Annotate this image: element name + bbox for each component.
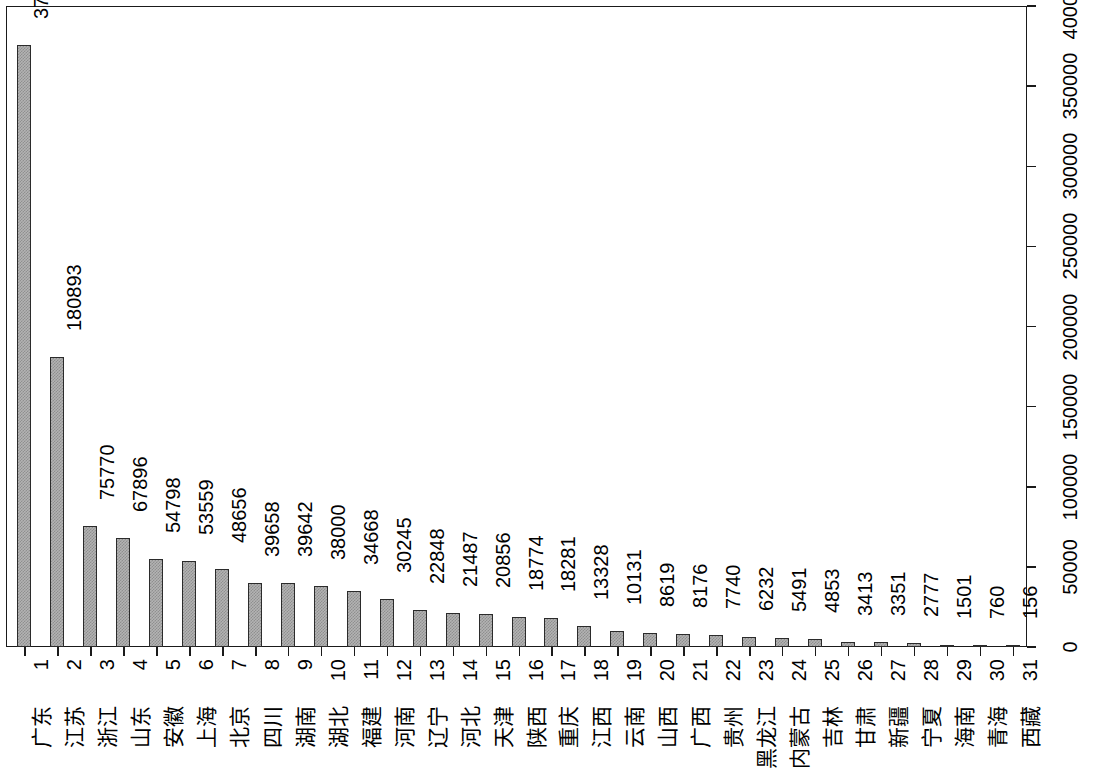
category-rank-label: 22 xyxy=(723,659,743,681)
bar-rect xyxy=(544,618,558,647)
category-tick xyxy=(123,647,125,656)
category-rank-label: 6 xyxy=(196,659,216,670)
category-name-label: 西藏 xyxy=(1021,706,1042,748)
category-name-label: 宁夏 xyxy=(922,706,943,748)
bar: 1501 xyxy=(940,6,954,647)
bar-rect xyxy=(347,591,361,647)
category-name-label: 福建 xyxy=(362,706,383,748)
category-rank-label: 20 xyxy=(657,659,677,681)
category-name-label: 北京 xyxy=(230,706,251,748)
category-rank-label: 5 xyxy=(163,659,183,670)
category-tick xyxy=(222,647,224,656)
bar-rect xyxy=(281,583,295,647)
category-rank-label: 23 xyxy=(756,659,776,681)
bar: 18774 xyxy=(512,6,526,647)
category-tick xyxy=(1013,647,1015,656)
bar-value-label: 39658 xyxy=(262,502,282,558)
category-tick xyxy=(584,647,586,656)
value-tick-label: 150000 xyxy=(1060,373,1080,440)
category-rank-label: 21 xyxy=(690,659,710,681)
bar-value-label: 53559 xyxy=(196,480,216,536)
bar: 38000 xyxy=(314,6,328,647)
category-tick xyxy=(387,647,389,656)
bar: 18281 xyxy=(544,6,558,647)
bar-value-label: 21487 xyxy=(460,531,480,587)
bar: 53559 xyxy=(182,6,196,647)
bar: 75770 xyxy=(83,6,97,647)
bar-rect xyxy=(643,633,657,647)
value-tick xyxy=(1027,166,1036,168)
bar-rect xyxy=(775,638,789,647)
bar-value-label: 20856 xyxy=(493,532,513,588)
category-name-label: 河南 xyxy=(395,706,416,748)
bar-rect xyxy=(83,526,97,647)
category-tick xyxy=(683,647,685,656)
bar-rect xyxy=(512,617,526,647)
category-name-label: 安徽 xyxy=(164,706,185,748)
category-name-label: 广西 xyxy=(691,706,712,748)
bar-rect xyxy=(182,561,196,647)
bar: 7740 xyxy=(709,6,723,647)
category-rank-label: 9 xyxy=(295,659,315,670)
bar: 34668 xyxy=(347,6,361,647)
category-tick xyxy=(947,647,949,656)
category-tick xyxy=(288,647,290,656)
bar-rect xyxy=(709,635,723,647)
bar-value-label: 1501 xyxy=(954,574,974,619)
category-rank-label: 13 xyxy=(427,659,447,681)
category-tick xyxy=(189,647,191,656)
category-tick xyxy=(749,647,751,656)
bar: 3413 xyxy=(841,6,855,647)
bar-rect xyxy=(577,626,591,647)
category-name-label: 广东 xyxy=(32,706,53,748)
bar: 22848 xyxy=(413,6,427,647)
value-tick-label: 100000 xyxy=(1060,453,1080,520)
bar: 8619 xyxy=(643,6,657,647)
bar-value-label: 18774 xyxy=(526,535,546,591)
category-tick xyxy=(782,647,784,656)
bar-value-label: 3413 xyxy=(855,571,875,616)
category-rank-label: 3 xyxy=(97,659,117,670)
category-name-label: 海南 xyxy=(955,706,976,748)
bar-value-label: 67896 xyxy=(130,457,150,513)
bar-value-label: 75770 xyxy=(97,444,117,500)
category-rank-label: 12 xyxy=(394,659,414,681)
bar-rect xyxy=(116,538,130,647)
value-tick-label: 350000 xyxy=(1060,53,1080,120)
bar-rect xyxy=(610,631,624,647)
category-name-label: 陕西 xyxy=(527,706,548,748)
bar: 375515 xyxy=(17,6,31,647)
bar-rect xyxy=(479,614,493,647)
bar: 5491 xyxy=(775,6,789,647)
category-rank-label: 16 xyxy=(526,659,546,681)
bar-rect xyxy=(742,637,756,647)
bar: 3351 xyxy=(874,6,888,647)
category-rank-label: 27 xyxy=(888,659,908,681)
category-name-label: 上海 xyxy=(197,706,218,748)
bar-value-label: 30245 xyxy=(394,517,414,573)
bar: 48656 xyxy=(215,6,229,647)
category-rank-label: 1 xyxy=(31,659,51,670)
category-rank-label: 2 xyxy=(64,659,84,670)
bar-value-label: 5491 xyxy=(789,568,809,613)
bar-value-label: 39642 xyxy=(295,502,315,558)
value-tick-label: 250000 xyxy=(1060,213,1080,280)
category-tick xyxy=(881,647,883,656)
bar-rect xyxy=(149,559,163,647)
category-tick xyxy=(486,647,488,656)
category-tick xyxy=(420,647,422,656)
category-name-label: 山东 xyxy=(131,706,152,748)
bar: 21487 xyxy=(446,6,460,647)
value-tick-label: 50000 xyxy=(1060,539,1080,595)
category-rank-label: 31 xyxy=(1020,659,1040,681)
category-tick xyxy=(90,647,92,656)
category-name-label: 贵州 xyxy=(724,706,745,748)
bar: 10131 xyxy=(610,6,624,647)
value-tick xyxy=(1027,406,1036,408)
category-tick xyxy=(914,647,916,656)
value-tick xyxy=(1027,5,1036,7)
bar: 760 xyxy=(973,6,987,647)
bar: 20856 xyxy=(479,6,493,647)
category-name-label: 新疆 xyxy=(889,706,910,748)
value-tick xyxy=(1027,486,1036,488)
